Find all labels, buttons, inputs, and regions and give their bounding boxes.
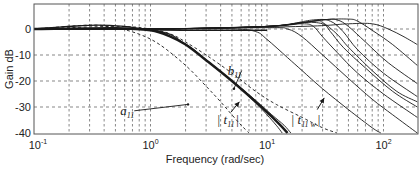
y-tick-label: -20 — [15, 75, 31, 87]
y-tick-label: -10 — [15, 49, 31, 61]
curve--t11-w-5 — [34, 21, 417, 102]
x-tick-label: 100 — [142, 138, 158, 151]
y-tick-label: 0 — [25, 23, 31, 35]
annotation-a11: a11 — [120, 103, 189, 120]
svg-text:| t11 w|: | t11 w| — [291, 112, 321, 129]
y-tick-label: -40 — [15, 127, 31, 139]
x-tick-label: 10-1 — [29, 138, 48, 151]
annotation-t11: | t11| — [217, 102, 240, 129]
y-axis-label: Gain dB — [3, 49, 15, 89]
svg-text:b11: b11 — [228, 63, 242, 80]
curve--t11-nominal-bold- — [34, 28, 288, 133]
y-tick-label: -30 — [15, 101, 31, 113]
x-tick-label: 102 — [375, 138, 391, 151]
x-axis-label: Frequency (rad/sec) — [166, 153, 264, 165]
curve--t11-w-4 — [34, 22, 417, 107]
svg-text:a11: a11 — [120, 103, 134, 120]
x-tick-label: 101 — [259, 138, 275, 151]
svg-text:| t11|: | t11| — [217, 112, 239, 129]
annotation-t11w: | t11 w| — [291, 98, 324, 129]
x-tick-labels: 10-1100101102 — [29, 138, 392, 151]
annotation-b11: b11 — [228, 63, 242, 91]
y-tick-labels: 0-10-20-30-40 — [15, 23, 31, 139]
bode-gain-chart: 0-10-20-30-40 10-1100101102 Gain dB Freq… — [0, 0, 420, 170]
curve--t11-w-3 — [34, 24, 417, 118]
